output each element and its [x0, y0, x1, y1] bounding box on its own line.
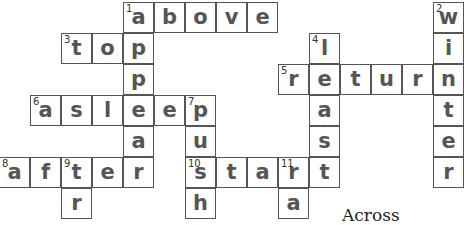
crossword-cell[interactable]: h	[185, 188, 216, 219]
crossword-cell[interactable]: t	[309, 157, 340, 188]
cell-letter: e	[100, 160, 114, 184]
crossword-cell[interactable]: r	[433, 157, 464, 188]
cell-letter: a	[38, 98, 52, 122]
cell-letter: h	[193, 191, 208, 215]
crossword-cell[interactable]: r	[123, 157, 154, 188]
across-heading: Across	[342, 205, 400, 225]
crossword-cell[interactable]: s	[309, 126, 340, 157]
clue-number: 2	[436, 3, 442, 14]
crossword-cell[interactable]: e	[309, 64, 340, 95]
crossword-cell[interactable]: e	[247, 2, 278, 33]
cell-letter: a	[286, 191, 300, 215]
crossword-cell[interactable]: e	[154, 95, 185, 126]
crossword-cell[interactable]: v	[216, 2, 247, 33]
crossword-cell[interactable]: a	[278, 188, 309, 219]
cell-letter: s	[318, 129, 331, 153]
crossword-cell[interactable]: r	[402, 64, 433, 95]
cell-letter: a	[131, 5, 145, 29]
crossword-cell[interactable]: t	[216, 157, 247, 188]
cell-letter: r	[412, 67, 422, 91]
clue-number: 3	[64, 34, 70, 45]
crossword-cell[interactable]: 6a	[30, 95, 61, 126]
cell-letter: s	[70, 98, 83, 122]
cell-letter: t	[319, 160, 329, 184]
crossword-cell[interactable]: 3t	[61, 33, 92, 64]
cell-letter: l	[321, 36, 328, 60]
crossword-cell[interactable]: l	[92, 95, 123, 126]
crossword-cell[interactable]: e	[123, 95, 154, 126]
crossword-cell[interactable]: s	[61, 95, 92, 126]
cell-letter: o	[100, 36, 114, 60]
cell-letter: p	[131, 67, 146, 91]
cell-letter: f	[41, 160, 50, 184]
crossword-cell[interactable]: 10s	[185, 157, 216, 188]
crossword-cell[interactable]: p	[123, 33, 154, 64]
cell-letter: t	[443, 98, 453, 122]
cell-letter: e	[255, 5, 269, 29]
cell-letter: a	[255, 160, 269, 184]
crossword-cell[interactable]: b	[154, 2, 185, 33]
cell-letter: a	[7, 160, 21, 184]
cell-letter: a	[317, 98, 331, 122]
crossword-cell[interactable]: p	[123, 64, 154, 95]
clue-number: 11	[281, 158, 294, 169]
cell-letter: e	[317, 67, 331, 91]
crossword-cell[interactable]: a	[309, 95, 340, 126]
crossword-cell[interactable]: u	[371, 64, 402, 95]
cell-letter: r	[71, 191, 81, 215]
cell-letter: n	[441, 67, 456, 91]
cell-letter: u	[193, 129, 208, 153]
cell-letter: o	[193, 5, 207, 29]
crossword-cell[interactable]: r	[61, 188, 92, 219]
crossword-cell[interactable]: 8a	[0, 157, 30, 188]
crossword-cell[interactable]: 7p	[185, 95, 216, 126]
crossword-cell[interactable]: e	[433, 126, 464, 157]
cell-letter: v	[225, 5, 239, 29]
cell-letter: t	[71, 160, 81, 184]
cell-letter: e	[441, 129, 455, 153]
crossword-cell[interactable]: 2w	[433, 2, 464, 33]
cell-letter: a	[131, 129, 145, 153]
crossword-cell[interactable]: a	[247, 157, 278, 188]
clue-number: 4	[312, 34, 318, 45]
clue-number: 5	[281, 65, 287, 76]
cell-letter: e	[162, 98, 176, 122]
crossword-cell[interactable]: o	[185, 2, 216, 33]
crossword-cell[interactable]: f	[30, 157, 61, 188]
crossword-cell[interactable]: n	[433, 64, 464, 95]
cell-letter: b	[162, 5, 177, 29]
cell-letter: t	[226, 160, 236, 184]
cell-letter: t	[350, 67, 360, 91]
crossword-cell[interactable]: u	[185, 126, 216, 157]
cell-letter: l	[104, 98, 111, 122]
cell-letter: i	[445, 36, 452, 60]
cell-letter: p	[131, 36, 146, 60]
cell-letter: p	[193, 98, 208, 122]
crossword-cell[interactable]: o	[92, 33, 123, 64]
clue-number: 1	[126, 3, 132, 14]
crossword-cell[interactable]: t	[340, 64, 371, 95]
clue-number: 10	[188, 158, 201, 169]
cell-letter: r	[133, 160, 143, 184]
crossword-cell[interactable]: 1a	[123, 2, 154, 33]
crossword-cell[interactable]: 5r	[278, 64, 309, 95]
clue-number: 7	[188, 96, 194, 107]
crossword-cell[interactable]: a	[123, 126, 154, 157]
clue-number: 9	[64, 158, 70, 169]
cell-letter: r	[443, 160, 453, 184]
clue-number: 8	[2, 158, 8, 169]
cell-letter: r	[288, 67, 298, 91]
crossword-cell[interactable]: i	[433, 33, 464, 64]
clue-number: 6	[33, 96, 39, 107]
crossword-cell[interactable]: t	[433, 95, 464, 126]
cell-letter: u	[379, 67, 394, 91]
crossword-cell[interactable]: 9t	[61, 157, 92, 188]
cell-letter: t	[71, 36, 81, 60]
crossword-cell[interactable]: 4l	[309, 33, 340, 64]
cell-letter: e	[131, 98, 145, 122]
crossword-cell[interactable]: e	[92, 157, 123, 188]
crossword-cell[interactable]: 11r	[278, 157, 309, 188]
